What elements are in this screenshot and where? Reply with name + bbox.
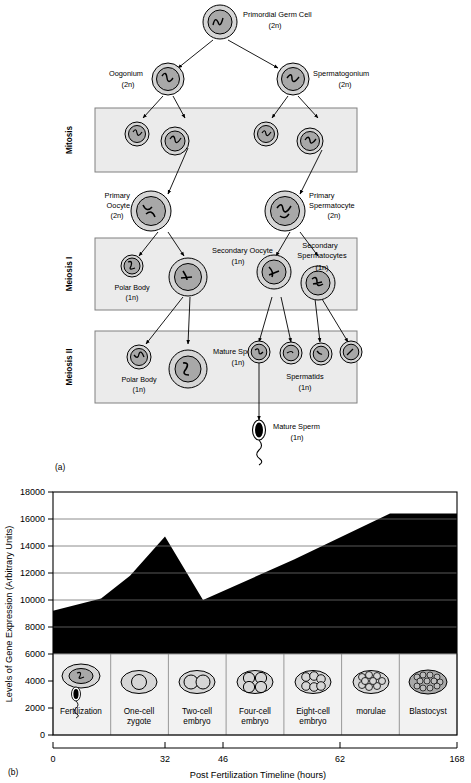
x-tick-0: 0 [50, 754, 55, 764]
stage-icon-two-cell-embryo [179, 671, 215, 694]
label-mature-sperm-final-ploidy: (1n) [290, 433, 303, 442]
label-oogonium-ploidy: (2n) [121, 80, 134, 89]
label-secondary-oocyte: Secondary Oocyte [212, 246, 273, 255]
figure-container: Mitosis Meiosis I Meiosis II P [0, 0, 471, 783]
cell-polar-body-1 [121, 255, 143, 277]
y-tick-16000: 16000 [20, 514, 45, 524]
stage-label-4-l1: Eight-cell [296, 707, 330, 716]
cell-primary-spermatocyte [265, 191, 305, 231]
stage-icon-blastocyst [409, 670, 447, 694]
label-secondary-spermatocytes-ploidy: (1n) [315, 263, 328, 272]
x-tick-32: 32 [160, 754, 170, 764]
cell-mature-sperm-meiosis2 [169, 350, 207, 388]
label-mature-sperm-meiosis2-ploidy: (1n) [231, 358, 244, 367]
label-polar-body-2: Polar Body [121, 375, 157, 384]
cell-spermatid-4 [340, 341, 362, 363]
label-secondary-spermatocytes-l2: Spermatocytes [297, 251, 347, 260]
label-spermatids-ploidy: (1n) [298, 383, 311, 392]
y-tick-12000: 12000 [20, 568, 45, 578]
stage-box-meiosis-2-label: Meiosis II [65, 349, 74, 386]
cell-primordial-germ-cell [203, 5, 237, 39]
cell-secondary-spermatocyte-1 [257, 255, 291, 289]
stage-label-1-l2: zygote [127, 717, 152, 726]
stage-box-meiosis-1-label: Meiosis I [65, 257, 74, 292]
cell-spermatid-2 [280, 342, 302, 364]
label-spermatids: Spermatids [286, 372, 324, 381]
label-polar-body-1: Polar Body [114, 283, 150, 292]
stage-label-3-l1: Four-cell [239, 707, 271, 716]
stage-label-5-l1: morulae [356, 707, 386, 716]
stage-icon-one-cell-zygote [121, 671, 157, 694]
label-primary-oocyte-l1: Primary [105, 191, 131, 200]
y-tick-2000: 2000 [25, 703, 45, 713]
y-tick-18000: 18000 [20, 487, 45, 497]
x-tick-168: 168 [449, 754, 464, 764]
stage-label-3-l2: embryo [241, 717, 269, 726]
label-primordial-germ-cell: Primordial Germ Cell [243, 10, 312, 19]
label-polar-body-2-ploidy: (1n) [133, 385, 146, 394]
cell-mitosis-daughter-4 [297, 128, 323, 154]
stage-label-2-l1: Two-cell [182, 707, 212, 716]
panel-b-label: (b) [8, 767, 18, 777]
y-tick-14000: 14000 [20, 541, 45, 551]
cell-mitosis-daughter-1 [125, 122, 149, 146]
stage-label-0-l1: Fertilization [60, 707, 102, 716]
cell-primary-oocyte [131, 191, 171, 231]
label-primordial-germ-cell-ploidy: (2n) [268, 21, 281, 30]
cell-spermatid-1 [248, 341, 270, 363]
y-tick-4000: 4000 [25, 676, 45, 686]
label-oogonium: Oogonium [109, 69, 143, 78]
x-tick-46: 46 [218, 754, 228, 764]
cell-polar-body-2 [127, 345, 151, 369]
y-tick-0: 0 [40, 730, 45, 740]
cell-secondary-oocyte [169, 258, 207, 296]
stage-icon-morulae [353, 671, 389, 694]
y-tick-6000: 6000 [25, 649, 45, 659]
stage-icon-eight-cell-embryo [295, 671, 331, 694]
y-axis-title: Levels of Gene Expression (Arbitrary Uni… [4, 526, 14, 703]
panel-a-label: (a) [55, 462, 65, 472]
x-axis-title: Post Fertilization Timeline (hours) [190, 770, 326, 780]
stage-label-2-l2: embryo [183, 717, 211, 726]
stage-box-meiosis-2: Meiosis II [65, 331, 357, 403]
stage-label-4-l2: embryo [299, 717, 327, 726]
label-primary-spermatocyte-ploidy: (2n) [327, 211, 340, 220]
label-primary-spermatocyte-l2: Spermatocyte [309, 201, 355, 210]
cell-mitosis-daughter-2 [161, 127, 189, 155]
label-spermatogonium-ploidy: (2n) [338, 80, 351, 89]
cell-oogonium [152, 63, 184, 95]
y-tick-8000: 8000 [25, 622, 45, 632]
label-secondary-oocyte-ploidy: (1n) [231, 257, 244, 266]
cell-spermatogonium [277, 63, 309, 95]
stage-box-mitosis-label: Mitosis [65, 125, 74, 154]
y-tick-10000: 10000 [20, 595, 45, 605]
cell-spermatid-3 [310, 343, 332, 365]
label-primary-oocyte-l2: Oocyte [107, 201, 130, 210]
label-mature-sperm-final: Mature Sperm [273, 422, 320, 431]
stage-icon-four-cell-embryo [237, 671, 273, 694]
label-secondary-spermatocytes-l1: Secondary [302, 241, 338, 250]
label-primary-spermatocyte-l1: Primary [309, 191, 335, 200]
stage-label-6-l1: Blastocyst [409, 707, 447, 716]
label-spermatogonium: Spermatogonium [313, 69, 369, 78]
x-tick-62: 62 [335, 754, 345, 764]
label-primary-oocyte-ploidy: (2n) [110, 211, 123, 220]
stage-label-1-l1: One-cell [124, 707, 155, 716]
label-polar-body-1-ploidy: (1n) [126, 293, 139, 302]
figure-svg: Mitosis Meiosis I Meiosis II P [0, 0, 471, 783]
cell-mitosis-daughter-3 [254, 122, 278, 146]
